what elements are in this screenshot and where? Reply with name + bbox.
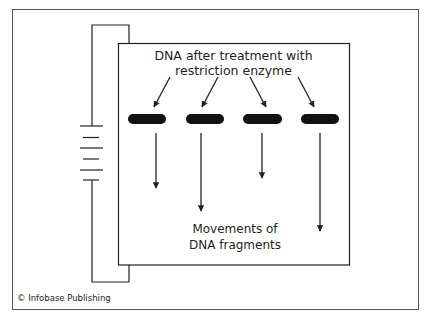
dna-treatment-label-line2: restriction enzyme — [118, 63, 349, 78]
fragment-movement-label-line2: DNA fragments — [170, 237, 300, 253]
dna-band-3 — [243, 114, 282, 124]
copyright-credit: © Infobase Publishing — [17, 293, 111, 303]
battery-icon — [80, 126, 103, 180]
fragment-movement-label-line1: Movements of — [170, 221, 300, 237]
dna-band-2 — [186, 114, 224, 124]
dna-treatment-label-line1: DNA after treatment with — [118, 48, 349, 63]
dna-treatment-label: DNA after treatment with restriction enz… — [118, 48, 349, 78]
fragment-movement-label: Movements of DNA fragments — [170, 221, 300, 253]
dna-band-4 — [301, 114, 339, 124]
dna-band-1 — [128, 114, 166, 124]
